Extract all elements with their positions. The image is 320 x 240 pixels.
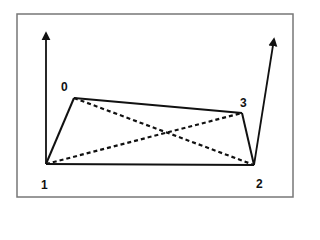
- edge-1-2: [46, 164, 254, 165]
- vertex-label-3: 3: [240, 97, 247, 109]
- vertex-label-0: 0: [61, 81, 68, 93]
- vertex-label-1: 1: [41, 179, 48, 191]
- edge-3-2: [242, 113, 254, 165]
- vertex-label-2: 2: [256, 178, 263, 190]
- diagonal-0-2: [74, 98, 254, 165]
- edge-0-3: [74, 98, 242, 113]
- solid-edges: [46, 98, 254, 165]
- edge-1-0: [46, 98, 74, 164]
- dashed-diagonals: [46, 98, 254, 165]
- diagonal-1-3: [46, 113, 242, 164]
- right-slanted-arrow: [254, 39, 274, 165]
